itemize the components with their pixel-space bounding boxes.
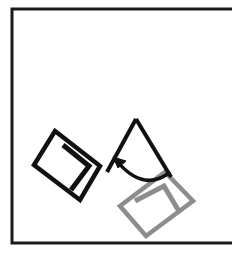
rotation-diagram	[0, 0, 232, 254]
diagram-canvas: Rotation of a square figure A framed geo…	[0, 0, 232, 254]
paper-background	[0, 0, 232, 254]
